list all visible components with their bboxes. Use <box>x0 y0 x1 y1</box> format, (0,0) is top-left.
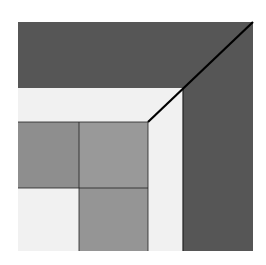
grey-square-bottom <box>79 188 148 251</box>
light-corner <box>18 188 79 251</box>
corner-illusion-figure <box>0 0 266 265</box>
grey-square-center <box>79 122 148 188</box>
grey-square-left <box>18 122 79 188</box>
